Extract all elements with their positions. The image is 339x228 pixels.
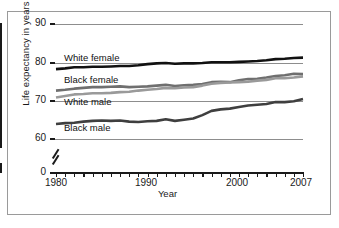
chart-figure: Life expectancy in years Year 90 80 70 6…: [0, 0, 339, 228]
x-tick-2002: [257, 173, 258, 177]
x-tick-label-2007: 2007: [281, 177, 321, 188]
y-tick-label-90: 90: [24, 17, 46, 28]
series-label-black-male: Black male: [64, 122, 110, 133]
x-tick-1985: [102, 173, 103, 177]
y-tick-70: [50, 100, 55, 102]
y-tick-label-0: 0: [24, 166, 46, 177]
y-tick-90: [50, 23, 55, 25]
series-label-black-female: Black female: [64, 74, 118, 85]
y-tick-label-80: 80: [24, 56, 46, 67]
x-tick-2004: [276, 173, 277, 177]
x-tick-1997: [212, 173, 213, 177]
x-tick-label-2000: 2000: [217, 177, 257, 188]
x-tick-1983: [83, 173, 84, 177]
gridline-90: [55, 24, 303, 25]
y-axis-spine-lower: [0, 163, 2, 173]
series-label-white-female: White female: [64, 52, 119, 63]
x-tick-label-1990: 1990: [126, 177, 166, 188]
x-tick-1987: [120, 173, 121, 177]
x-tick-1995: [193, 173, 194, 177]
x-tick-1994: [184, 173, 185, 177]
y-tick-label-70: 70: [24, 94, 46, 105]
x-tick-1986: [111, 173, 112, 177]
series-label-white-male: White male: [64, 96, 112, 107]
x-tick-label-1980: 1980: [36, 177, 76, 188]
x-axis-title: Year: [40, 188, 295, 199]
x-tick-2003: [266, 173, 267, 177]
y-axis-spine-upper: [0, 23, 2, 148]
y-tick-label-60: 60: [24, 132, 46, 143]
x-tick-1984: [93, 173, 94, 177]
y-tick-80: [50, 62, 55, 64]
gridline-60: [55, 139, 303, 140]
plot-area: [55, 22, 303, 167]
x-tick-1996: [202, 173, 203, 177]
y-tick-60: [50, 138, 55, 140]
x-tick-1993: [175, 173, 176, 177]
